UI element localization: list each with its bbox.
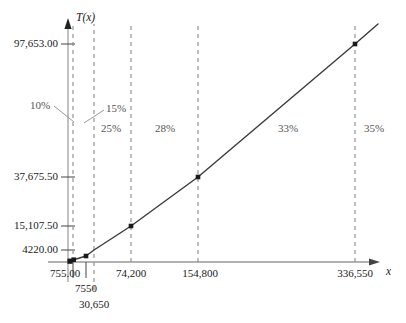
marker-154800: [196, 175, 201, 180]
rate-leader-lines: [54, 106, 104, 123]
rate-label-15pct: 15%: [106, 103, 126, 114]
tax-function-graph-figure: 97,653.00 37,675.50 15,107.50 4220.00 75…: [0, 0, 406, 323]
leader-line-10pct: [54, 106, 74, 122]
y-axis-name-label: T(x): [76, 12, 95, 23]
marker-7550: [71, 257, 76, 262]
y-tick-label-15107: 15,107.50: [0, 220, 58, 231]
y-tick-label-4220: 4220.00: [0, 244, 58, 255]
x-tick-label-30650: 30,650: [70, 299, 118, 310]
y-tick-label-37675: 37,675.50: [0, 171, 58, 182]
rate-label-10pct: 10%: [30, 100, 50, 111]
marker-30650: [84, 254, 89, 259]
x-tick-label-7550: 7550: [62, 283, 110, 294]
bracket-boundary-lines: [73, 24, 355, 290]
rate-label-33pct: 33%: [278, 123, 298, 134]
curve-data-markers: [67, 42, 357, 264]
x-tick-label-336550: 336,550: [329, 268, 381, 279]
x-tick-label-755: 755.00: [36, 268, 94, 279]
rate-label-28pct: 28%: [155, 123, 175, 134]
y-axis: [64, 18, 71, 282]
y-tick-label-97653: 97,653.00: [0, 38, 58, 49]
x-axis: [48, 258, 380, 265]
marker-74200: [129, 224, 134, 229]
x-axis-name-label: x: [386, 266, 391, 277]
x-tick-label-154800: 154,800: [174, 268, 226, 279]
tax-curve: [70, 24, 378, 262]
rate-label-35pct: 35%: [364, 123, 384, 134]
rate-label-25pct: 25%: [101, 123, 121, 134]
marker-336550: [353, 42, 358, 47]
x-tick-label-74200: 74,200: [107, 268, 155, 279]
